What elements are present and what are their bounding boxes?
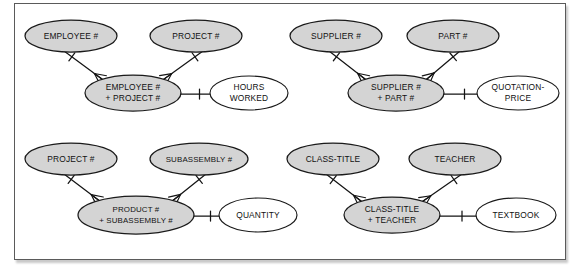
composite-key-entity-supplier-part[interactable]: SUPPLIER #+ PART # bbox=[348, 75, 444, 111]
key-entity-employee-project-0-label: EMPLOYEE # bbox=[44, 31, 99, 41]
key-entity-product-subassembly-0[interactable]: PROJECT # bbox=[25, 143, 117, 175]
cardinality-one-tick bbox=[69, 53, 75, 61]
cardinality-one-tick bbox=[192, 53, 198, 61]
attribute-connector bbox=[440, 211, 476, 221]
composite-key-entity-class-teacher-label: + TEACHER bbox=[368, 215, 416, 225]
key-entity-class-teacher-1[interactable]: TEACHER bbox=[409, 143, 501, 175]
cardinality-one-tick bbox=[451, 176, 457, 184]
attribute-entity-class-teacher[interactable]: TEXTBOOK bbox=[476, 198, 556, 232]
key-entity-product-subassembly-0-label: PROJECT # bbox=[47, 154, 94, 164]
key-entity-employee-project-1[interactable]: PROJECT # bbox=[150, 20, 242, 52]
key-entity-class-teacher-1-label: TEACHER bbox=[434, 154, 475, 164]
key-entity-supplier-part-0-label: SUPPLIER # bbox=[311, 31, 361, 41]
key-entity-class-teacher-0[interactable]: CLASS-TITLE bbox=[287, 143, 379, 175]
cardinality-one-tick bbox=[68, 175, 74, 183]
key-entity-employee-project-1-label: PROJECT # bbox=[172, 31, 219, 41]
composite-key-entity-employee-project-label: EMPLOYEE # bbox=[106, 82, 161, 92]
cardinality-one-tick bbox=[333, 53, 339, 61]
composite-key-entity-supplier-part-label: SUPPLIER # bbox=[371, 82, 421, 92]
composite-key-entity-class-teacher-label: CLASS-TITLE bbox=[365, 204, 420, 214]
composite-key-entity-class-teacher[interactable]: CLASS-TITLE+ TEACHER bbox=[344, 197, 440, 233]
key-entity-supplier-part-1-label: PART # bbox=[438, 31, 467, 41]
key-entity-product-subassembly-1[interactable]: SUBASSEMBLY # bbox=[150, 143, 248, 175]
composite-key-entity-employee-project[interactable]: EMPLOYEE #+ PROJECT # bbox=[85, 75, 181, 111]
cardinality-one-tick bbox=[330, 176, 336, 184]
key-entity-class-teacher-0-label: CLASS-TITLE bbox=[306, 154, 361, 164]
composite-key-entity-supplier-part-label: + PART # bbox=[378, 93, 415, 103]
attribute-entity-supplier-part-label: QUOTATION- bbox=[492, 82, 545, 92]
composite-key-entity-product-subassembly[interactable]: PRODUCT #+ SUBASSEMBLY # bbox=[78, 196, 194, 234]
attribute-entity-product-subassembly[interactable]: QUANTITY bbox=[219, 198, 297, 232]
attribute-entity-employee-project[interactable]: HOURSWORKED bbox=[210, 76, 288, 110]
er-diagram-canvas: EMPLOYEE #PROJECT #EMPLOYEE #+ PROJECT #… bbox=[0, 0, 584, 268]
attribute-entity-employee-project-label: HOURS bbox=[234, 82, 265, 92]
attribute-entity-product-subassembly-label: QUANTITY bbox=[236, 210, 280, 220]
composite-key-entity-product-subassembly-label: + SUBASSEMBLY # bbox=[99, 216, 173, 225]
attribute-entity-supplier-part[interactable]: QUOTATION-PRICE bbox=[477, 76, 559, 110]
cardinality-one-tick bbox=[196, 176, 202, 184]
key-entity-supplier-part-0[interactable]: SUPPLIER # bbox=[290, 20, 382, 52]
composite-key-entity-product-subassembly-label: PRODUCT # bbox=[113, 205, 160, 214]
er-diagram-svg: EMPLOYEE #PROJECT #EMPLOYEE #+ PROJECT #… bbox=[0, 0, 584, 268]
key-entity-supplier-part-1[interactable]: PART # bbox=[407, 20, 499, 52]
attribute-entity-class-teacher-label: TEXTBOOK bbox=[493, 210, 540, 220]
key-entity-product-subassembly-1-label: SUBASSEMBLY # bbox=[166, 155, 233, 164]
attribute-connector bbox=[181, 89, 210, 99]
key-entity-employee-project-0[interactable]: EMPLOYEE # bbox=[25, 20, 117, 52]
attribute-entity-supplier-part-label: PRICE bbox=[505, 93, 532, 103]
attribute-connector bbox=[444, 89, 477, 99]
attribute-entity-employee-project-label: WORKED bbox=[230, 93, 269, 103]
composite-key-entity-employee-project-label: + PROJECT # bbox=[106, 93, 161, 103]
attribute-connector bbox=[194, 211, 219, 221]
